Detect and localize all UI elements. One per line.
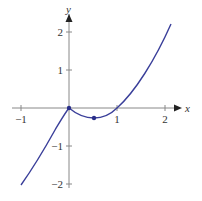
function-curve	[21, 24, 171, 185]
x-axis-arrow-icon	[174, 105, 182, 112]
chart: −1 1 2 2 1 −1 −2 x y	[0, 0, 202, 201]
y-axis-label: y	[65, 3, 71, 15]
x-tick-label: 1	[114, 113, 120, 125]
y-tick-label: 1	[58, 64, 64, 76]
y-axis-arrow-icon	[66, 14, 73, 22]
y-tick-label: 2	[58, 26, 64, 38]
x-tick-label: 2	[162, 113, 168, 125]
local-minimum-point	[92, 116, 96, 120]
x-tick-label: −1	[15, 113, 27, 125]
cusp-point	[67, 106, 71, 110]
y-tick-label: −2	[51, 178, 63, 190]
x-axis-label: x	[184, 102, 190, 114]
y-tick-label: −1	[51, 140, 63, 152]
